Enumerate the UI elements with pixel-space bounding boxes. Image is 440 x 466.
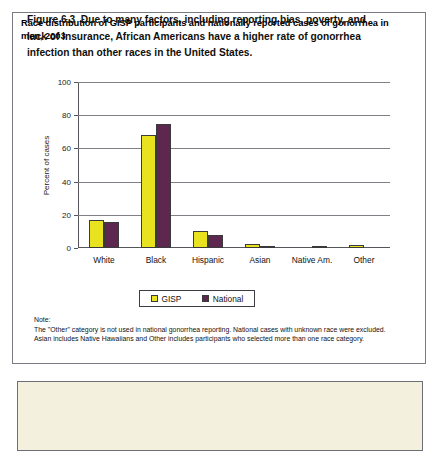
bar bbox=[208, 235, 223, 248]
y-tick-label: 60 bbox=[62, 144, 71, 153]
y-tick-mark bbox=[74, 248, 78, 249]
bars-layer bbox=[78, 82, 390, 248]
y-tick-label: 80 bbox=[62, 111, 71, 120]
bar bbox=[104, 222, 119, 248]
note-block: Note: The "Other" category is not used i… bbox=[34, 315, 394, 344]
bar-group bbox=[78, 82, 130, 248]
bar-group bbox=[286, 82, 338, 248]
legend-label: National bbox=[213, 294, 243, 304]
caption-box bbox=[17, 381, 423, 451]
legend-swatch-icon bbox=[151, 295, 158, 302]
bar bbox=[349, 245, 364, 248]
legend-entry: GISP bbox=[151, 294, 181, 304]
figure-caption: Figure 6.3 Due to many factors, includin… bbox=[27, 12, 379, 62]
bar bbox=[141, 135, 156, 248]
bar bbox=[245, 244, 260, 248]
note-label: Note: bbox=[34, 315, 394, 324]
bar-group bbox=[182, 82, 234, 248]
bar bbox=[193, 231, 208, 248]
bar-group bbox=[234, 82, 286, 248]
bar bbox=[312, 246, 327, 248]
bar-group bbox=[130, 82, 182, 248]
figure-caption-number: Figure 6.3 bbox=[27, 14, 75, 25]
y-axis-title: Percent of cases bbox=[41, 82, 53, 248]
chart-legend: GISPNational bbox=[139, 290, 255, 307]
y-tick-label: 100 bbox=[58, 78, 71, 87]
note-text: The "Other" category is not used in nati… bbox=[34, 325, 394, 344]
y-tick-label: 0 bbox=[67, 244, 71, 253]
y-axis-title-label: Percent of cases bbox=[43, 135, 52, 195]
y-tick-label: 20 bbox=[62, 210, 71, 219]
y-tick-label: 40 bbox=[62, 177, 71, 186]
bar bbox=[156, 124, 171, 249]
legend-label: GISP bbox=[162, 294, 182, 304]
plot-area-wrapper: 020406080100 WhiteBlackHispanicAsianNati… bbox=[78, 82, 390, 248]
bar bbox=[89, 220, 104, 248]
bar bbox=[260, 246, 275, 248]
legend-swatch-icon bbox=[202, 295, 209, 302]
bar-group bbox=[338, 82, 390, 248]
x-axis-label: Other bbox=[321, 255, 407, 265]
legend-entry: National bbox=[202, 294, 243, 304]
